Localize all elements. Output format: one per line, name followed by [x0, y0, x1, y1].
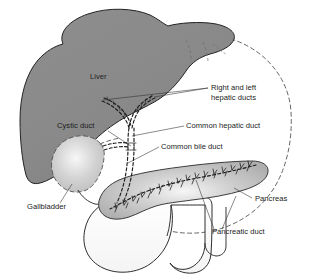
leader-pancreatic-duct-secondary: [222, 196, 236, 229]
leader-common-bile-duct: [128, 147, 159, 163]
label-right-and-left-hepatic-ducts-line2: hepatic ducts: [211, 93, 256, 102]
label-pancreatic-duct: Pancreatic duct: [212, 227, 266, 236]
label-right-and-left-hepatic-ducts-line1: Right and left: [211, 83, 257, 92]
label-liver: Liver: [90, 72, 107, 81]
anatomy-figure: Liver Right and left hepatic ducts Cysti…: [0, 0, 313, 276]
label-cystic-duct: Cystic duct: [57, 121, 95, 130]
pancreas-shape: [99, 161, 268, 219]
anatomy-diagram-canvas: Liver Right and left hepatic ducts Cysti…: [0, 0, 313, 276]
label-pancreas: Pancreas: [255, 194, 287, 203]
leader-common-hepatic-duct: [132, 126, 184, 136]
label-common-bile-duct: Common bile duct: [161, 142, 223, 151]
label-gallbladder: Gallbladder: [27, 202, 67, 211]
label-common-hepatic-duct: Common hepatic duct: [186, 121, 261, 130]
